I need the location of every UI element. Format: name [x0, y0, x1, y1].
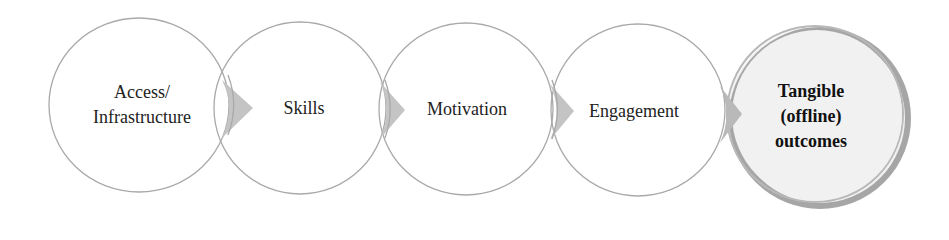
stage-label-line: Skills — [283, 96, 324, 121]
stage-label-line: Motivation — [427, 97, 507, 122]
stage-label-line: (offline) — [781, 104, 842, 129]
stage-label-skills: Skills — [259, 96, 349, 121]
stage-label-line: Access/ — [114, 80, 170, 105]
stage-label-motivation: Motivation — [412, 97, 522, 122]
arrow-icon — [380, 82, 405, 139]
stage-label-line: Engagement — [589, 99, 679, 124]
stage-label-line: Tangible — [778, 79, 844, 104]
stage-label-engagement: Engagement — [574, 99, 694, 124]
stage-label-line: outcomes — [775, 129, 847, 154]
stage-label-access: Access/ Infrastructure — [77, 80, 207, 130]
stage-label-outcomes: Tangible (offline) outcomes — [756, 79, 866, 154]
stage-label-line: Infrastructure — [93, 105, 191, 130]
arrow-icon — [550, 84, 574, 140]
